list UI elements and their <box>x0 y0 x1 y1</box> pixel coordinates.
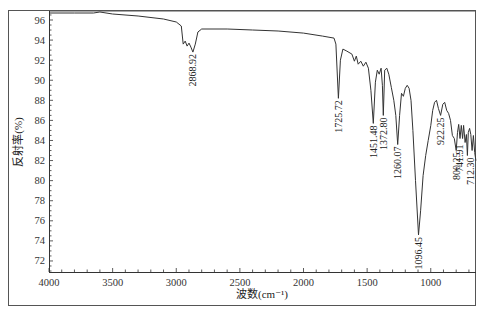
y-tick-label: 76 <box>35 215 46 226</box>
peak-label: 712.30 <box>465 158 476 186</box>
x-tick-label: 3500 <box>102 277 123 288</box>
outer-frame <box>9 11 476 306</box>
spectrum-series <box>49 12 476 235</box>
y-tick-label: 84 <box>35 135 46 146</box>
y-tick-label: 78 <box>35 195 46 206</box>
y-tick-label: 82 <box>35 155 46 166</box>
x-tick-label: 1000 <box>420 277 441 288</box>
peak-label: 741.91 <box>454 145 465 173</box>
ir-spectrum-chart: 72747678808284868890929496 4000350030002… <box>0 0 485 318</box>
y-tick-label: 92 <box>35 55 46 66</box>
y-tick-label: 86 <box>35 115 46 126</box>
peak-label: 1096.45 <box>413 237 424 270</box>
peak-label: 922.25 <box>435 117 446 144</box>
peak-label: 2868.92 <box>187 54 198 87</box>
peak-label: 1372.80 <box>378 117 389 149</box>
y-tick-label: 74 <box>35 235 46 246</box>
y-tick-label: 72 <box>35 255 46 266</box>
x-tick-label: 4000 <box>39 277 60 288</box>
x-tick-label: 2500 <box>229 277 250 288</box>
x-axis-title: 波数(cm⁻¹) <box>236 288 288 301</box>
y-axis-ticks: 72747678808284868890929496 <box>35 15 54 272</box>
peak-label: 1260.07 <box>392 147 403 180</box>
spectrum-line <box>49 12 476 235</box>
y-axis-title: 反射率(%) <box>11 117 25 167</box>
y-tick-label: 90 <box>35 75 46 86</box>
y-tick-label: 96 <box>35 15 46 26</box>
peak-label: 1725.72 <box>333 100 344 133</box>
y-tick-label: 80 <box>35 175 46 186</box>
x-tick-label: 2000 <box>293 277 314 288</box>
peak-annotations: 2868.921725.721451.481372.801260.071096.… <box>187 54 476 269</box>
x-axis-ticks: 4000350030002500200015001000 <box>39 268 469 288</box>
y-tick-label: 94 <box>35 35 46 46</box>
y-tick-label: 88 <box>35 95 46 106</box>
x-tick-label: 3000 <box>166 277 187 288</box>
x-tick-label: 1500 <box>357 277 378 288</box>
